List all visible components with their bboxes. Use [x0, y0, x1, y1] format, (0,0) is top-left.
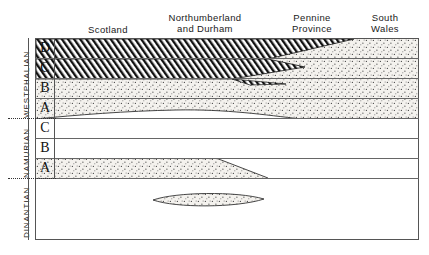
stage-letter-column: D C B A C B A: [35, 38, 55, 178]
stage-rule-nam-c-b: [35, 138, 419, 139]
stipple-namurian-a-band: [36, 158, 268, 178]
era-bracket-westphalian: [28, 38, 29, 118]
stage-rule-d-c: [35, 58, 419, 59]
stage-letter-namurian-c: C: [35, 118, 55, 138]
era-label-westphalian: WESTPHALIAN: [22, 51, 31, 118]
column-header-south-wales: South Wales: [352, 12, 418, 34]
stage-letter-westphalian-a: A: [35, 98, 55, 118]
era-bracket-namurian: [28, 118, 29, 178]
separator-westphalian-namurian: [8, 118, 56, 119]
stage-rule-c-b: [35, 78, 419, 79]
column-header-scotland: Scotland: [58, 24, 158, 35]
era-label-namurian: NAMURIAN: [22, 128, 31, 178]
column-header-pennine-province: Pennine Province: [272, 12, 352, 34]
stage-rule-nam-b-a: [35, 158, 419, 159]
stage-rule-namurian-dinantian: [35, 178, 419, 179]
stage-letter-namurian-a: A: [35, 158, 55, 178]
stage-letter-westphalian-c: C: [35, 58, 55, 78]
facies-layer: [36, 39, 418, 239]
dinantian-lens-group: [153, 193, 264, 205]
stage-letter-westphalian-d: D: [35, 38, 55, 58]
facies-svg: [36, 39, 418, 239]
stratigraphic-diagram: Scotland Northumberland and Durham Penni…: [0, 0, 429, 255]
namurian-a-group: [36, 158, 268, 178]
stage-letter-namurian-b: B: [35, 138, 55, 158]
dinantian-limestone-lens: [153, 193, 264, 205]
stage-rule-westphalian-namurian: [35, 118, 419, 119]
era-bracket-dinantian: [28, 178, 29, 240]
separator-namurian-dinantian: [8, 178, 56, 179]
era-label-dinantian: DINANTIAN: [22, 187, 31, 238]
column-header-northumberland-and-durham: Northumberland and Durham: [150, 12, 260, 34]
stage-letter-westphalian-b: B: [35, 78, 55, 98]
stage-rule-b-a: [35, 98, 419, 99]
